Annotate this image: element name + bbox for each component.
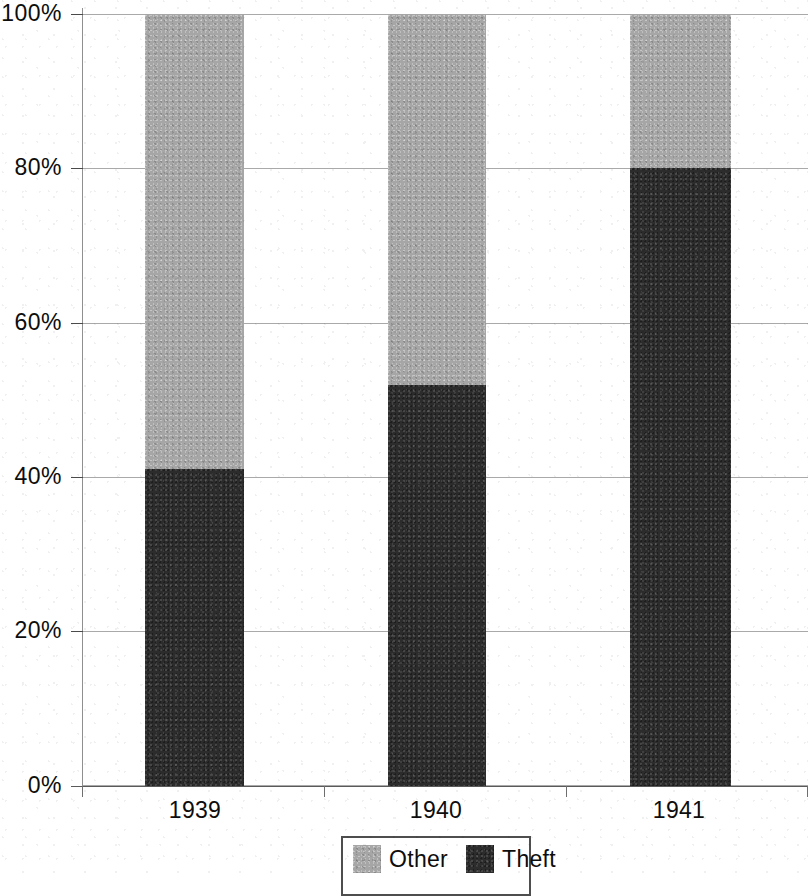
x-tick-mark-2 xyxy=(566,786,567,797)
y-axis-line xyxy=(82,8,83,796)
x-tick-mark-1 xyxy=(324,786,325,797)
bar-group-1940 xyxy=(388,14,486,786)
bar-segment-other-1940 xyxy=(388,14,486,385)
x-axis-label-1941: 1941 xyxy=(589,797,769,824)
y-axis-label-20: 20% xyxy=(0,617,62,644)
y-tick-mark-100 xyxy=(71,14,83,15)
bar-group-1941 xyxy=(630,14,731,786)
bar-segment-other-1939 xyxy=(145,14,244,469)
legend-label-theft: Theft xyxy=(502,848,556,871)
bar-segment-other-1941 xyxy=(630,14,731,168)
legend-swatch-other-icon xyxy=(353,845,381,873)
y-tick-mark-80 xyxy=(71,168,83,169)
x-axis-label-1940: 1940 xyxy=(346,797,526,824)
y-tick-mark-20 xyxy=(71,631,83,632)
x-axis-line xyxy=(71,786,808,787)
y-axis-label-80: 80% xyxy=(0,154,62,181)
y-tick-mark-40 xyxy=(71,477,83,478)
x-tick-mark-left xyxy=(82,786,83,797)
y-axis-label-60: 60% xyxy=(0,309,62,336)
y-tick-mark-60 xyxy=(71,323,83,324)
plot-area xyxy=(82,14,808,786)
legend-entry-other: Other xyxy=(353,845,448,873)
bar-segment-theft-1939 xyxy=(145,469,244,786)
legend-label-other: Other xyxy=(389,848,448,871)
y-axis-label-100: 100% xyxy=(0,0,62,27)
y-axis-label-40: 40% xyxy=(0,463,62,490)
bar-segment-theft-1941 xyxy=(630,168,731,786)
legend-entry-theft: Theft xyxy=(466,845,556,873)
y-axis-label-0: 0% xyxy=(0,772,62,799)
bar-group-1939 xyxy=(145,14,244,786)
legend: Other Theft xyxy=(353,843,556,875)
x-axis-label-1939: 1939 xyxy=(105,797,285,824)
bar-segment-theft-1940 xyxy=(388,385,486,786)
legend-swatch-theft-icon xyxy=(466,845,494,873)
